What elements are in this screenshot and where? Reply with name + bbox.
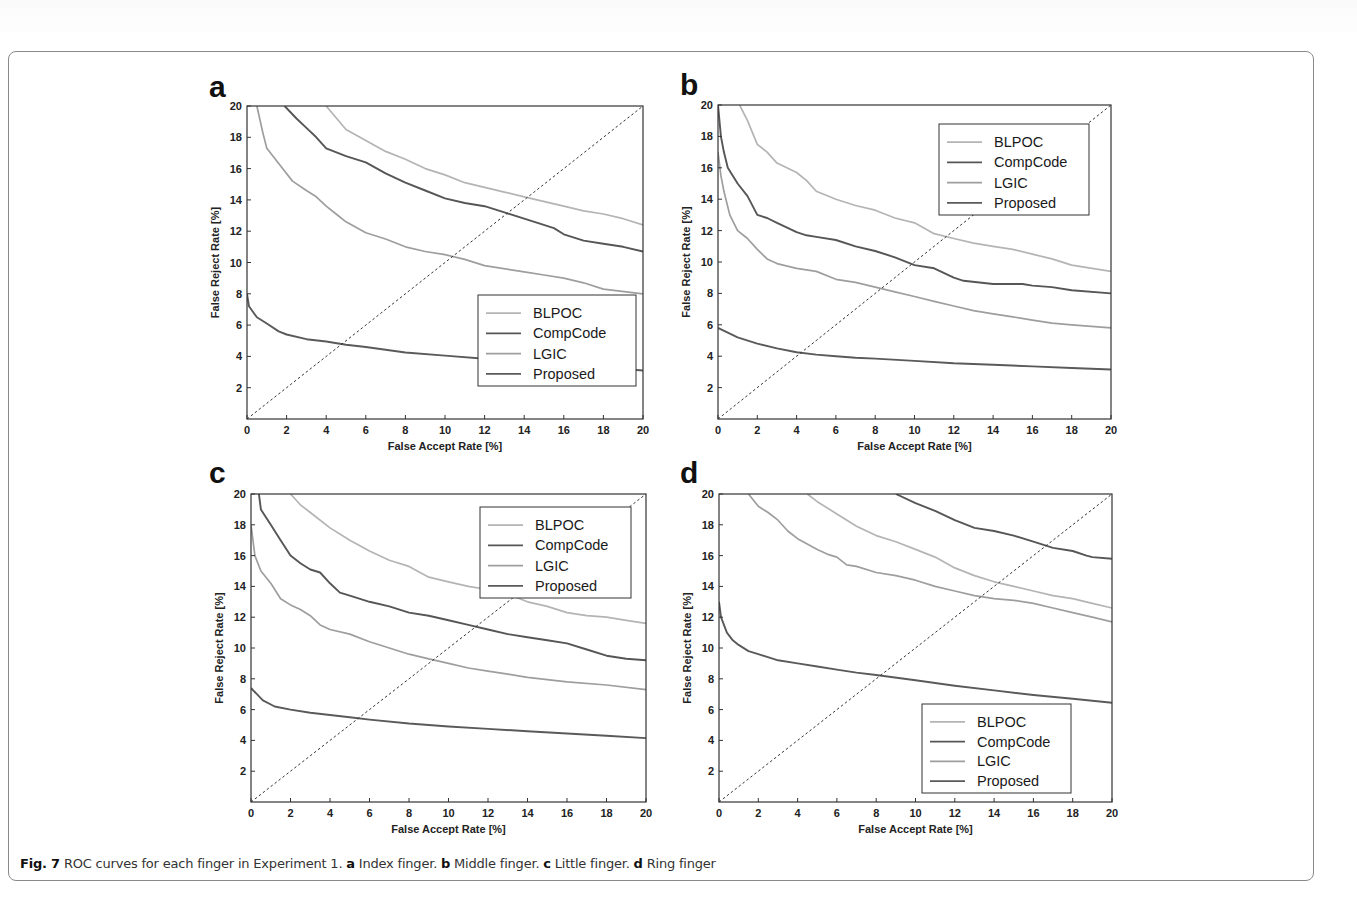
y-tick-label: 8: [707, 287, 713, 299]
series-line-blpoc: [807, 494, 1112, 608]
x-tick-label: 8: [873, 807, 879, 819]
x-axis-label: False Accept Rate [%]: [388, 440, 503, 452]
y-tick-label: 20: [702, 488, 714, 500]
y-tick-label: 4: [240, 734, 247, 746]
caption-text: ROC curves for each finger in Experiment…: [60, 856, 346, 871]
roc-panel-b: 024681012141618202468101214161820False A…: [680, 99, 1117, 452]
y-tick-label: 10: [701, 256, 713, 268]
x-tick-label: 16: [558, 424, 570, 436]
series-line-compcode: [896, 494, 1112, 559]
series-line-proposed: [251, 688, 646, 738]
roc-panel-c: 024681012141618202468101214161820False A…: [213, 488, 652, 835]
x-axis-label: False Accept Rate [%]: [857, 440, 972, 452]
y-tick-label: 6: [707, 319, 713, 331]
y-tick-label: 18: [701, 130, 713, 142]
y-tick-label: 2: [708, 765, 714, 777]
x-tick-label: 6: [833, 424, 839, 436]
x-tick-label: 2: [287, 807, 293, 819]
x-tick-label: 4: [327, 807, 334, 819]
x-tick-label: 8: [872, 424, 878, 436]
y-tick-label: 4: [236, 350, 243, 362]
y-tick-label: 16: [230, 163, 242, 175]
x-axis-label: False Accept Rate [%]: [858, 823, 973, 835]
y-axis-label: False Reject Rate [%]: [209, 207, 221, 319]
y-tick-label: 12: [234, 611, 246, 623]
y-tick-label: 2: [240, 765, 246, 777]
x-tick-label: 4: [323, 424, 330, 436]
y-axis-label: False Reject Rate [%]: [680, 206, 692, 318]
y-tick-label: 14: [701, 193, 714, 205]
caption-letter-a: a: [346, 856, 355, 871]
x-tick-label: 8: [402, 424, 408, 436]
y-tick-label: 18: [702, 519, 714, 531]
x-tick-label: 12: [949, 807, 961, 819]
y-axis-label: False Reject Rate [%]: [213, 592, 225, 704]
x-tick-label: 4: [795, 807, 802, 819]
legend-label-compcode: CompCode: [535, 537, 608, 553]
y-tick-label: 20: [234, 488, 246, 500]
x-tick-label: 14: [988, 807, 1001, 819]
legend-label-lgic: LGIC: [977, 753, 1011, 769]
y-tick-label: 6: [236, 319, 242, 331]
legend-label-proposed: Proposed: [533, 366, 595, 382]
figure-caption: Fig. 7 ROC curves for each finger in Exp…: [20, 856, 716, 871]
x-tick-label: 0: [715, 424, 721, 436]
x-tick-label: 2: [754, 424, 760, 436]
x-tick-label: 12: [948, 424, 960, 436]
x-tick-label: 0: [248, 807, 254, 819]
legend-label-lgic: LGIC: [535, 558, 569, 574]
x-tick-label: 20: [640, 807, 652, 819]
x-tick-label: 12: [478, 424, 490, 436]
y-tick-label: 8: [240, 673, 246, 685]
legend: BLPOCCompCodeLGICProposed: [478, 295, 636, 386]
legend-label-lgic: LGIC: [533, 346, 567, 362]
x-tick-label: 2: [284, 424, 290, 436]
x-tick-label: 20: [637, 424, 649, 436]
x-tick-label: 10: [442, 807, 454, 819]
x-tick-label: 10: [908, 424, 920, 436]
caption-desc-a: Index finger.: [355, 856, 441, 871]
x-axis-label: False Accept Rate [%]: [391, 823, 506, 835]
y-tick-label: 6: [240, 704, 246, 716]
x-tick-label: 18: [600, 807, 612, 819]
x-tick-label: 18: [1066, 424, 1078, 436]
y-tick-label: 12: [230, 225, 242, 237]
x-tick-label: 20: [1105, 424, 1117, 436]
y-tick-label: 20: [701, 99, 713, 111]
x-tick-label: 14: [987, 424, 1000, 436]
y-tick-label: 10: [230, 257, 242, 269]
x-tick-label: 14: [518, 424, 531, 436]
y-axis-label: False Reject Rate [%]: [681, 592, 693, 704]
legend: BLPOCCompCodeLGICProposed: [480, 507, 631, 598]
y-tick-label: 14: [234, 580, 247, 592]
x-tick-label: 20: [1106, 807, 1118, 819]
legend-label-compcode: CompCode: [533, 325, 606, 341]
legend-label-blpoc: BLPOC: [535, 517, 584, 533]
x-tick-label: 16: [1026, 424, 1038, 436]
legend: BLPOCCompCodeLGICProposed: [922, 704, 1071, 793]
series-line-lgic: [749, 494, 1113, 622]
roc-panel-a: 024681012141618202468101214161820False A…: [209, 100, 649, 452]
y-tick-label: 16: [702, 550, 714, 562]
legend-label-proposed: Proposed: [994, 195, 1056, 211]
x-tick-label: 18: [1067, 807, 1079, 819]
caption-letter-b: b: [441, 856, 450, 871]
x-tick-label: 12: [482, 807, 494, 819]
x-tick-label: 6: [363, 424, 369, 436]
caption-desc-d: Ring finger: [643, 856, 716, 871]
x-tick-label: 6: [366, 807, 372, 819]
x-tick-label: 16: [561, 807, 573, 819]
legend-label-compcode: CompCode: [977, 734, 1050, 750]
y-tick-label: 20: [230, 100, 242, 112]
legend-label-blpoc: BLPOC: [533, 305, 582, 321]
caption-letter-c: c: [543, 856, 551, 871]
y-tick-label: 18: [230, 131, 242, 143]
roc-panel-d: 024681012141618202468101214161820False A…: [681, 488, 1118, 835]
y-tick-label: 6: [708, 704, 714, 716]
y-tick-label: 12: [701, 225, 713, 237]
caption-desc-c: Little finger.: [551, 856, 634, 871]
x-tick-label: 8: [406, 807, 412, 819]
series-line-compcode: [285, 106, 643, 252]
y-tick-label: 4: [707, 350, 714, 362]
caption-fig-label: Fig. 7: [20, 856, 60, 871]
